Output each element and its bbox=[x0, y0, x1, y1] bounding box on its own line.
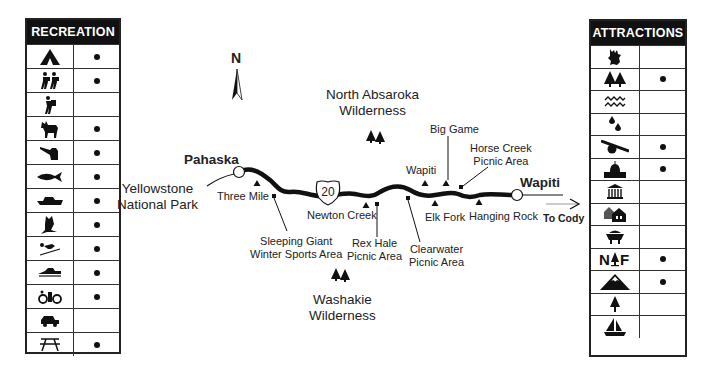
to-cody-arrow-icon bbox=[546, 199, 579, 209]
north-arrow-icon bbox=[232, 69, 242, 100]
horse-creek-label: Horse Creek Picnic Area bbox=[470, 142, 532, 168]
sleeping-giant-label: Sleeping Giant Winter Sports Area bbox=[250, 235, 342, 261]
to-cody-label: To Cody bbox=[543, 212, 584, 225]
compass-north-label: N bbox=[231, 52, 241, 65]
forest-trees-icon bbox=[331, 268, 350, 282]
big-game-label: Big Game bbox=[430, 123, 479, 136]
park-label-line2: National Park bbox=[117, 197, 198, 213]
rex-hale-line1: Rex Hale bbox=[347, 237, 402, 250]
sleeping-giant-line2: Winter Sports Area bbox=[250, 248, 342, 261]
park-connector-line bbox=[207, 174, 234, 186]
forest-trees-icon bbox=[366, 130, 385, 144]
rex-hale-label: Rex Hale Picnic Area bbox=[347, 237, 402, 263]
pahaska-label: Pahaska bbox=[184, 152, 239, 168]
pahaska-town-marker bbox=[234, 167, 245, 178]
wapiti-town-marker bbox=[512, 190, 523, 201]
wapiti-campground-label: Wapiti bbox=[406, 164, 436, 177]
clearwater-line1: Clearwater bbox=[409, 243, 464, 256]
washakie-label: Washakie Wilderness bbox=[309, 292, 376, 324]
north-absaroka-label: North Absaroka Wilderness bbox=[326, 87, 419, 119]
washakie-line2: Wilderness bbox=[309, 308, 376, 324]
north-absaroka-line2: Wilderness bbox=[326, 103, 419, 119]
clearwater-label: Clearwater Picnic Area bbox=[409, 243, 464, 269]
washakie-line1: Washakie bbox=[309, 292, 376, 308]
highway-20-road bbox=[244, 170, 512, 198]
newton-creek-label: Newton Creek bbox=[307, 209, 377, 222]
horse-creek-line1: Horse Creek bbox=[470, 142, 532, 155]
route-shield-number: 20 bbox=[320, 186, 336, 199]
horse-creek-line2: Picnic Area bbox=[470, 155, 532, 168]
rex-hale-line2: Picnic Area bbox=[347, 250, 402, 263]
facility-markers bbox=[272, 136, 488, 242]
wapiti-town-label: Wapiti bbox=[520, 175, 560, 191]
elk-fork-label: Elk Fork bbox=[425, 211, 465, 224]
sleeping-giant-line1: Sleeping Giant bbox=[250, 235, 342, 248]
park-label: Yellowstone National Park bbox=[117, 181, 198, 213]
clearwater-line2: Picnic Area bbox=[409, 256, 464, 269]
north-absaroka-line1: North Absaroka bbox=[326, 87, 419, 103]
hanging-rock-label: Hanging Rock bbox=[469, 210, 538, 223]
park-label-line1: Yellowstone bbox=[117, 181, 198, 197]
three-mile-label: Three Mile bbox=[217, 190, 269, 203]
